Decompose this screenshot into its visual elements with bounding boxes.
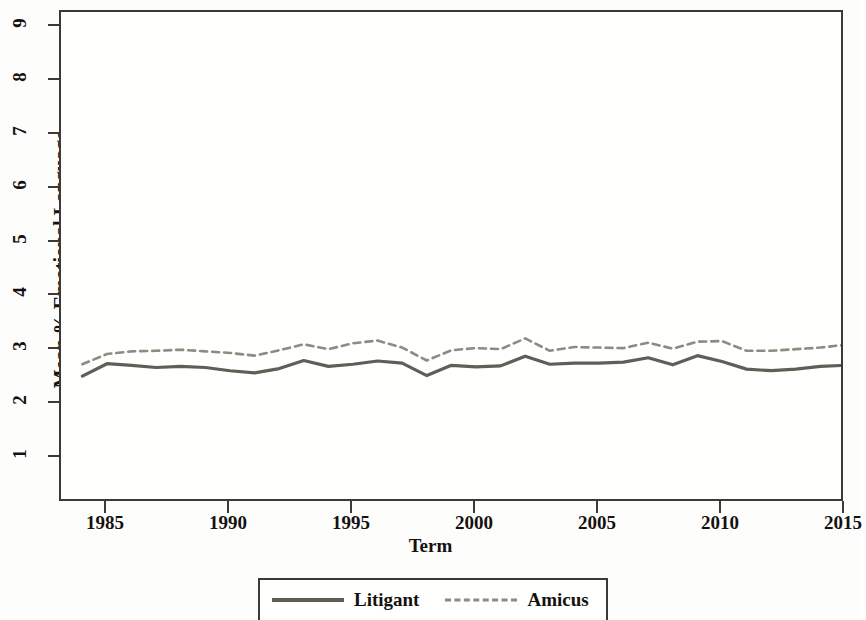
y-tick-6 [48,186,59,188]
y-tick-label-3: 3 [9,326,31,366]
y-tick-8 [48,78,59,80]
x-tick-label-2010: 2010 [680,512,760,534]
x-axis-title: Term [0,535,861,557]
y-tick-label-1: 1 [9,434,31,474]
x-tick-label-1990: 1990 [188,512,268,534]
x-tick-label-2005: 2005 [557,512,637,534]
y-tick-4 [48,293,59,295]
series-lines [61,12,841,499]
plot-area [59,10,843,501]
y-tick-label-7: 7 [9,111,31,151]
series-line-amicus [82,338,841,364]
y-tick-3 [48,347,59,349]
x-tick-label-1985: 1985 [65,512,145,534]
legend-label-amicus: Amicus [527,589,588,611]
legend-swatch-dashed-icon [445,593,517,607]
legend-entry-litigant[interactable]: Litigant [272,589,445,611]
y-tick-1 [48,455,59,457]
x-tick-label-2000: 2000 [434,512,514,534]
series-line-litigant [82,356,841,376]
y-tick-label-6: 6 [9,165,31,205]
y-tick-label-2: 2 [9,380,31,420]
y-tick-5 [48,240,59,242]
y-tick-2 [48,401,59,403]
legend-entry-amicus[interactable]: Amicus [445,589,614,611]
chart-legend: LitigantAmicus [258,578,608,620]
y-tick-label-5: 5 [9,219,31,259]
legend-swatch-solid-icon [272,593,344,607]
y-tick-label-9: 9 [9,3,31,43]
legend-label-litigant: Litigant [354,589,419,611]
y-tick-7 [48,132,59,134]
x-tick-label-1995: 1995 [311,512,391,534]
x-tick-label-2015: 2015 [803,512,866,534]
y-tick-label-8: 8 [9,57,31,97]
y-tick-9 [48,24,59,26]
y-tick-label-4: 4 [9,272,31,312]
